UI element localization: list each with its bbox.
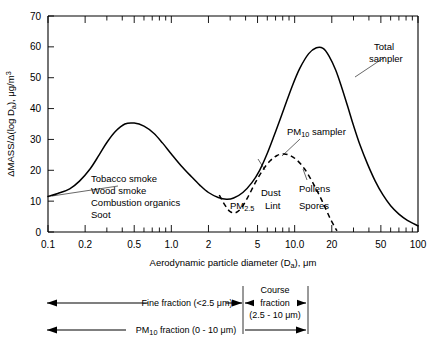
- lint-label: Lint: [265, 200, 281, 211]
- pm10-fraction-main: PM: [136, 325, 150, 335]
- y-axis-title-sup: 3: [4, 71, 13, 75]
- y-tick-label: 20: [30, 165, 42, 176]
- x-tick-label: 2: [206, 239, 212, 250]
- spores-label: Spores: [299, 200, 329, 211]
- pm25-label-sub: 2.5: [244, 204, 254, 213]
- dust-label: Dust: [261, 187, 281, 198]
- pm10-sampler-label-sub: 10: [301, 130, 309, 139]
- source-tobacco-smoke: Tobacco smoke: [91, 173, 157, 184]
- source-combustion-organics: Combustion organics: [91, 197, 180, 208]
- x-tick-label: 10.0: [285, 239, 305, 250]
- y-axis-title-tail: ), μg/m: [5, 75, 16, 105]
- pm10-sampler-label-tail: sampler: [309, 126, 345, 137]
- y-axis-title: ΔMASS/Δ(log Da), μg/m3: [4, 71, 19, 177]
- y-tick-label: 50: [30, 72, 42, 83]
- x-tick-label: 20: [326, 239, 338, 250]
- y-tick-label: 40: [30, 103, 42, 114]
- y-tick-label: 70: [30, 11, 42, 22]
- pollens-label: Pollens: [299, 183, 330, 194]
- x-tick-label: 1.0: [164, 239, 178, 250]
- x-axis-title-main: Aerodynamic particle diameter (D: [150, 257, 291, 268]
- coarse-fraction-label-line3: (2.5 - 10 μm): [249, 310, 301, 320]
- x-tick-label: 0.5: [127, 239, 141, 250]
- x-tick-label: 100: [410, 239, 427, 250]
- y-tick-label: 60: [30, 41, 42, 52]
- particle-size-distribution-chart: 010203040506070 0.10.20.51.02510.0205010…: [0, 0, 437, 348]
- x-tick-label: 0.1: [41, 239, 55, 250]
- pm10-sampler-label-main: PM: [287, 126, 301, 137]
- x-tick-label: 50: [375, 239, 387, 250]
- y-axis-title-main: ΔMASS/Δ(log D: [5, 109, 16, 177]
- coarse-fraction-label-line2: fraction: [260, 298, 290, 308]
- source-soot: Soot: [91, 209, 111, 220]
- fine-fraction-label: Fine fraction (<2.5 μm): [142, 298, 233, 308]
- figure-container: 010203040506070 0.10.20.51.02510.0205010…: [0, 0, 437, 348]
- y-tick-label: 0: [35, 227, 41, 238]
- total-sampler-label-line2: sampler: [369, 53, 403, 64]
- pm25-label-main: PM: [230, 200, 244, 211]
- pm10-fraction-sub: 10: [149, 328, 157, 337]
- coarse-fraction-label-line1: Course: [260, 285, 289, 295]
- total-sampler-label-line1: Total: [374, 41, 394, 52]
- y-tick-label: 10: [30, 196, 42, 207]
- x-tick-label: 0.2: [78, 239, 92, 250]
- source-wood-smoke: Wood smoke: [91, 185, 146, 196]
- y-tick-label: 30: [30, 134, 42, 145]
- x-tick-label: 5: [255, 239, 261, 250]
- pm10-fraction-tail: fraction (0 - 10 μm): [157, 325, 236, 335]
- x-axis-title-tail: ), μm: [295, 257, 317, 268]
